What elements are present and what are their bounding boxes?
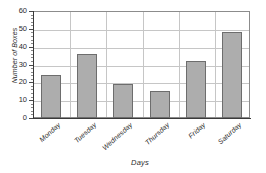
x-axis-tick-label: Thursday <box>136 121 170 153</box>
y-axis-tick-major <box>29 82 33 83</box>
y-axis-line <box>33 11 34 119</box>
y-axis-tick-minor <box>31 97 33 98</box>
y-axis-title: Number of Boxes <box>11 14 18 98</box>
x-axis-tick-label: Wednesday <box>100 121 134 153</box>
gridline-horizontal <box>34 30 249 31</box>
y-axis-tick-minor <box>31 75 33 76</box>
y-axis-tick-major <box>29 11 33 12</box>
y-axis-tick-major <box>29 29 33 30</box>
bar <box>186 61 206 118</box>
y-axis-tick-minor <box>31 18 33 19</box>
y-axis-tick-major <box>29 47 33 48</box>
y-axis-tick-minor <box>31 104 33 105</box>
x-axis-tick-label: Friday <box>172 121 206 153</box>
x-axis-title: Days <box>0 158 266 167</box>
y-axis-tick-major <box>29 118 33 119</box>
gridline-vertical <box>106 12 107 117</box>
y-axis-tick-minor <box>31 32 33 33</box>
y-axis-tick-minor <box>31 72 33 73</box>
gridline-horizontal <box>34 48 249 49</box>
gridline-horizontal <box>34 83 249 84</box>
y-axis-tick-minor <box>31 54 33 55</box>
y-axis-tick-major <box>29 65 33 66</box>
y-axis-tick-minor <box>31 114 33 115</box>
gridline-horizontal <box>34 101 249 102</box>
y-axis-tick-minor <box>31 68 33 69</box>
bar <box>150 91 170 118</box>
y-axis-tick-minor <box>31 25 33 26</box>
bar <box>41 75 61 118</box>
bar <box>77 54 97 118</box>
chart-title-fragment <box>96 0 188 3</box>
bar <box>222 32 242 118</box>
y-axis-tick-minor <box>31 89 33 90</box>
gridline-vertical <box>179 12 180 117</box>
y-axis-tick-minor <box>31 15 33 16</box>
gridline-vertical <box>143 12 144 117</box>
x-axis-line <box>33 118 251 119</box>
y-axis-tick-minor <box>31 43 33 44</box>
bar-chart-figure: 0102030405060 Number of Boxes MondayTues… <box>0 0 266 173</box>
y-axis-tick-minor <box>31 86 33 87</box>
x-axis-tick-label: Tuesday <box>64 121 98 153</box>
y-axis-tick-minor <box>31 50 33 51</box>
y-axis-tick-minor <box>31 22 33 23</box>
y-axis-tick-minor <box>31 107 33 108</box>
y-axis-tick-minor <box>31 93 33 94</box>
y-axis-tick-label: 0 <box>9 114 27 122</box>
y-axis-tick-minor <box>31 36 33 37</box>
bar <box>113 84 133 118</box>
x-axis-tick-label: Saturday <box>208 121 242 153</box>
y-axis-tick-major <box>29 100 33 101</box>
y-axis-tick-minor <box>31 111 33 112</box>
y-axis-tick-minor <box>31 79 33 80</box>
y-axis-tick-minor <box>31 40 33 41</box>
y-axis-tick-minor <box>31 57 33 58</box>
plot-area <box>33 11 250 118</box>
y-axis-tick-minor <box>31 61 33 62</box>
gridline-vertical <box>70 12 71 117</box>
gridline-horizontal <box>34 66 249 67</box>
x-axis-tick-label: Monday <box>27 121 61 153</box>
gridline-vertical <box>215 12 216 117</box>
